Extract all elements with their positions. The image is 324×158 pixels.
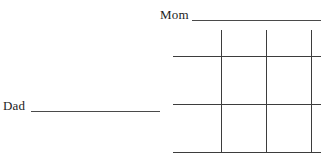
grid-horizontal-line-3 <box>173 152 321 153</box>
grid-cell-r2c1[interactable] <box>174 57 220 103</box>
grid-cell-r1c3[interactable] <box>267 31 310 55</box>
punnett-grid <box>0 0 324 158</box>
grid-cell-r2c2[interactable] <box>222 57 265 103</box>
worksheet-canvas: Mom Dad <box>0 0 324 158</box>
grid-cell-r2c3[interactable] <box>267 57 310 103</box>
grid-cell-r1c2[interactable] <box>222 31 265 55</box>
grid-cell-r3c3[interactable] <box>267 105 310 151</box>
dad-answer-rule[interactable] <box>31 111 160 112</box>
dad-field-label: Dad <box>3 99 25 112</box>
grid-vertical-line-3 <box>311 30 312 153</box>
grid-cell-r1c1[interactable] <box>174 31 220 55</box>
grid-cell-r3c1[interactable] <box>174 105 220 151</box>
grid-cell-r3c2[interactable] <box>222 105 265 151</box>
mom-answer-rule[interactable] <box>192 20 321 21</box>
mom-field-label: Mom <box>160 8 189 21</box>
